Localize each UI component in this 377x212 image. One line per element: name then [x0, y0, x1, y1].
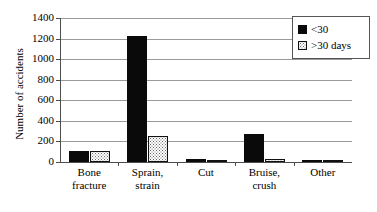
- y-axis-tick-label: 600: [20, 94, 54, 105]
- x-axis-category-label-4: Other: [294, 166, 352, 179]
- y-axis-line: [60, 18, 61, 163]
- bar-series-0-category-2: [186, 159, 206, 162]
- x-axis-category-label-0: Bonefracture: [60, 166, 118, 192]
- y-axis-tick-label: 0: [20, 156, 54, 167]
- x-axis-label-line: crush: [235, 179, 293, 192]
- legend-swatch-icon-series-0: [298, 25, 307, 34]
- legend-item-series-1: >30 days: [298, 37, 364, 53]
- x-axis-label-line: Other: [294, 166, 352, 179]
- gridline: [60, 121, 352, 122]
- y-axis-tick-label: 200: [20, 135, 54, 146]
- x-axis-category-label-1: Sprain,strain: [118, 166, 176, 192]
- bar-series-0-category-1: [127, 36, 147, 163]
- gridline: [60, 80, 352, 81]
- x-axis-label-line: Bone: [60, 166, 118, 179]
- legend-label-series-0: <30: [311, 24, 328, 35]
- y-axis-tick-label: 1000: [20, 53, 54, 64]
- x-axis-label-line: fracture: [60, 179, 118, 192]
- bar-series-0-category-4: [302, 160, 322, 162]
- x-axis-label-line: Bruise,: [235, 166, 293, 179]
- legend-label-series-1: >30 days: [311, 40, 351, 51]
- y-axis-tick-label: 1200: [20, 33, 54, 44]
- bar-series-1-category-4: [323, 160, 343, 162]
- bar-series-1-category-1: [148, 136, 168, 162]
- gridline: [60, 141, 352, 142]
- gridline: [60, 100, 352, 101]
- x-axis-label-line: Sprain,: [118, 166, 176, 179]
- legend-item-series-0: <30: [298, 21, 364, 37]
- y-axis-tick-label: 800: [20, 74, 54, 85]
- x-axis-category-label-3: Bruise,crush: [235, 166, 293, 192]
- x-axis-category-label-2: Cut: [177, 166, 235, 179]
- bar-series-0-category-3: [244, 134, 264, 162]
- x-axis-line: [60, 162, 352, 163]
- bar-chart: Number of accidents 14001200100080060040…: [0, 0, 377, 212]
- legend: <30 >30 days: [292, 16, 370, 59]
- gridline: [60, 59, 352, 60]
- y-axis-tick-label: 1400: [20, 12, 54, 23]
- legend-swatch-icon-series-1: [298, 41, 307, 50]
- bar-series-1-category-0: [90, 151, 110, 162]
- bar-series-1-category-3: [265, 159, 285, 162]
- bar-series-0-category-0: [69, 151, 89, 162]
- bar-series-1-category-2: [207, 160, 227, 162]
- y-axis-title-container: Number of accidents: [2, 45, 18, 155]
- y-axis-tick-label: 400: [20, 115, 54, 126]
- x-axis-label-line: Cut: [177, 166, 235, 179]
- x-axis-label-line: strain: [118, 179, 176, 192]
